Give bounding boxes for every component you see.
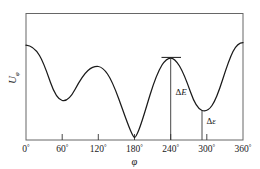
degree-sign-240: ° bbox=[177, 143, 180, 150]
delta-epsilon-label: Δε bbox=[207, 116, 217, 126]
x-axis-title: φ bbox=[132, 156, 138, 167]
x-tick-value-60: 60 bbox=[56, 144, 66, 154]
plot-canvas: ΔE Δε 0° 60° 120° 180° 240° 300° 360° φ … bbox=[0, 0, 260, 169]
x-tick-value-120: 120 bbox=[90, 144, 105, 154]
x-tick-labels: 0° 60° 120° 180° 240° 300° 360° bbox=[22, 143, 252, 155]
degree-sign-360: ° bbox=[249, 143, 252, 150]
degree-sign-60: ° bbox=[66, 143, 69, 150]
x-tick-label-60: 60° bbox=[56, 143, 68, 155]
degree-sign-120: ° bbox=[104, 143, 107, 150]
delta-epsilon-symbol-glyph: ε bbox=[212, 116, 216, 126]
delta-e-symbol-glyph: E bbox=[180, 87, 187, 97]
x-tick-label-180: 180° bbox=[126, 143, 143, 155]
x-tick-label-240: 240° bbox=[162, 143, 179, 155]
x-tick-value-240: 240 bbox=[162, 144, 177, 154]
degree-sign-300: ° bbox=[213, 143, 216, 150]
x-tick-value-300: 300 bbox=[198, 144, 213, 154]
x-tick-label-0: 0° bbox=[22, 143, 30, 155]
x-tick-label-120: 120° bbox=[90, 143, 107, 155]
x-tick-value-360: 360 bbox=[235, 144, 250, 154]
potential-energy-figure: ΔE Δε 0° 60° 120° 180° 240° 300° 360° φ … bbox=[0, 0, 260, 169]
y-axis-title: Uφ bbox=[7, 72, 21, 84]
degree-sign-0: ° bbox=[27, 143, 30, 150]
y-axis-title-subscript: φ bbox=[13, 72, 21, 76]
y-axis-title-group: Uφ bbox=[7, 72, 21, 84]
delta-e-label: ΔE bbox=[176, 87, 188, 97]
x-tick-label-300: 300° bbox=[198, 143, 215, 155]
x-tick-value-180: 180 bbox=[126, 144, 141, 154]
x-tick-label-360: 360° bbox=[235, 143, 252, 155]
degree-sign-180: ° bbox=[140, 143, 143, 150]
